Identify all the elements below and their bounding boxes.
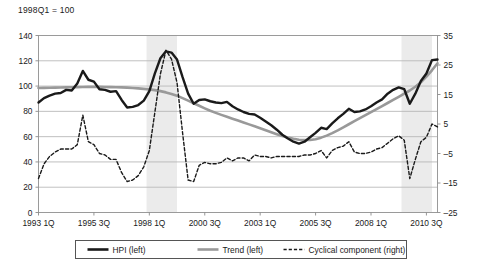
shaded-recession-bands (147, 36, 432, 213)
plot-border (39, 36, 438, 213)
right-axis-tick-label: –25 (444, 208, 458, 218)
chart-container: 1998Q1 = 100 020406080100120140 –25–15–5… (0, 0, 482, 267)
gridlines (39, 36, 438, 213)
right-axis-tick-label: 25 (444, 60, 454, 70)
series-hpi-left (39, 51, 438, 143)
left-axis-tick-label: 40 (23, 157, 33, 167)
left-axis-tick-label: 80 (23, 106, 33, 116)
x-axis-tick-label: 2010 3Q (410, 218, 443, 228)
right-axis-tick-label: 5 (444, 119, 449, 129)
left-axis-tick-label: 120 (19, 56, 33, 66)
chart-legend: HPI (left)Trend (left)Cyclical component… (76, 241, 407, 259)
left-axis-tick-label: 0 (28, 208, 33, 218)
left-axis-tick-label: 60 (23, 132, 33, 142)
house-price-index-chart: 020406080100120140 –25–15–55152535 1993 … (0, 0, 482, 267)
legend-item-label: Cyclical component (right) (309, 245, 406, 255)
left-axis-tick-label: 100 (19, 81, 33, 91)
x-axis-tick-label: 1998 1Q (133, 218, 166, 228)
right-axis-tick-label: 35 (444, 31, 454, 41)
x-axis-tick-label: 2008 1Q (355, 218, 388, 228)
x-axis-tick-label: 2005 3Q (300, 218, 333, 228)
legend-item-label: HPI (left) (113, 245, 146, 255)
shaded-band (401, 36, 431, 213)
right-axis-tick-label: –5 (444, 149, 454, 159)
left-axis-tick-label: 140 (19, 31, 33, 41)
x-axis-ticks: 1993 1Q1995 3Q1998 1Q2000 3Q2003 1Q2005 … (22, 213, 443, 228)
x-axis-tick-label: 2000 3Q (189, 218, 222, 228)
x-axis-tick-label: 1995 3Q (78, 218, 111, 228)
x-axis-tick-label: 2003 1Q (244, 218, 277, 228)
right-axis-ticks: –25–15–55152535 (438, 31, 458, 218)
right-axis-tick-label: –15 (444, 178, 458, 188)
series-line (39, 51, 438, 143)
plot-frame (39, 36, 438, 213)
x-axis-tick-label: 1993 1Q (22, 218, 55, 228)
legend-item-label: Trend (left) (223, 245, 264, 255)
left-axis-ticks: 020406080100120140 (19, 31, 39, 218)
left-axis-tick-label: 20 (23, 182, 33, 192)
right-axis-tick-label: 15 (444, 90, 454, 100)
chart-note-title: 1998Q1 = 100 (18, 5, 75, 15)
